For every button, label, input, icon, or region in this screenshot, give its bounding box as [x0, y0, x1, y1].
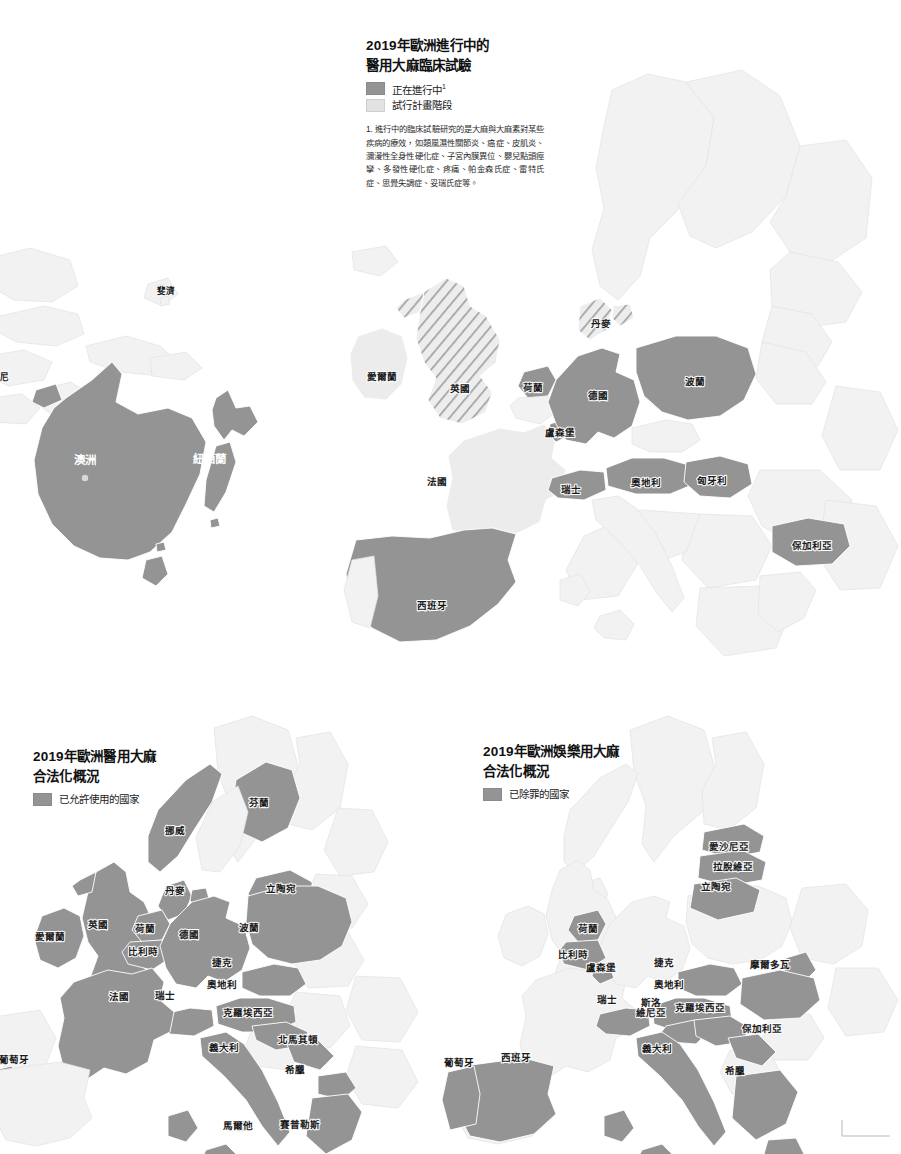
- legend-item-pilot: 試行計畫階段: [366, 99, 556, 112]
- map-label-挪威: 挪威: [165, 825, 185, 836]
- map-label-保加利亞: 保加利亞: [741, 1023, 782, 1034]
- legend-label-pilot: 試行計畫階段: [392, 100, 452, 111]
- map-label-愛爾蘭: 愛爾蘭: [35, 931, 65, 942]
- map-label-奧地利: 奧地利: [630, 477, 661, 488]
- map-label-斐濟: 斐濟: [156, 285, 175, 296]
- map-label-法國: 法國: [427, 476, 447, 487]
- legend-swatch-dark: [366, 82, 385, 95]
- map-label-丹麥: 丹麥: [164, 885, 185, 896]
- map-label-德國: 德國: [179, 929, 199, 940]
- legend-swatch-dark: [483, 788, 502, 801]
- medical-title-block: 2019年歐洲醫用大麻 合法化概況 已允許使用的國家: [33, 747, 233, 810]
- recreational-legalisation-map-panel: 愛沙尼亞拉脫維亞立陶宛荷蘭比利時盧森堡捷克摩爾多瓦奧地利瑞士斯洛維尼亞克羅埃西亞…: [450, 720, 901, 1154]
- map-label-保加利亞: 保加利亞: [791, 540, 832, 551]
- clinical-trials-legend: 正在進行中1 試行計畫階段: [366, 82, 556, 112]
- map-label-瑞士: 瑞士: [597, 994, 617, 1005]
- legend-label-ongoing: 正在進行中1: [392, 83, 446, 95]
- legend-swatch-light: [366, 99, 385, 112]
- map-label-希臘: 希臘: [725, 1065, 745, 1076]
- map-label-荷蘭: 荷蘭: [577, 923, 598, 934]
- map-label-瑞士: 瑞士: [155, 990, 175, 1001]
- capital-dot-icon: [82, 475, 88, 481]
- map-label-葡萄牙: 葡萄牙: [443, 1057, 474, 1068]
- map-label-賽普勒斯: 賽普勒斯: [279, 1119, 320, 1130]
- clinical-trials-title-block: 2019年歐洲進行中的 醫用大麻臨床試驗 正在進行中1 試行計畫階段 1. 進行…: [366, 36, 556, 190]
- oceania-inset-panel: 斐濟尼澳洲紐西蘭: [0, 230, 300, 630]
- map-label-盧森堡: 盧森堡: [545, 427, 575, 438]
- map-label-北馬其頓: 北馬其頓: [278, 1034, 318, 1045]
- map-label-葡萄牙: 葡萄牙: [0, 1054, 29, 1065]
- map-label-克羅埃西亞: 克羅埃西亞: [223, 1007, 273, 1018]
- legend-item-decriminalised: 已除罪的國家: [483, 788, 693, 801]
- map-label-克羅埃西亞: 克羅埃西亞: [675, 1002, 725, 1013]
- map-label-奧地利: 奧地利: [206, 979, 237, 990]
- map-label-捷克: 捷克: [212, 957, 232, 968]
- map-label-立陶宛: 立陶宛: [701, 881, 731, 892]
- medical-legend: 已允許使用的國家: [33, 793, 233, 806]
- legend-item-medical-allowed: 已允許使用的國家: [33, 793, 233, 806]
- map-label-尼: 尼: [0, 372, 9, 382]
- medical-legalisation-map-panel: 芬蘭挪威丹麥立陶宛英國愛爾蘭荷蘭比利時德國波蘭捷克奧地利瑞士法國克羅埃西亞北馬其…: [0, 720, 440, 1154]
- map-label-荷蘭: 荷蘭: [522, 382, 543, 393]
- map-label-拉脫維亞: 拉脫維亞: [713, 861, 753, 872]
- map-label-芬蘭: 芬蘭: [248, 797, 269, 808]
- legend-item-ongoing: 正在進行中1: [366, 82, 556, 95]
- map-label-愛爾蘭: 愛爾蘭: [367, 371, 397, 382]
- recreational-title: 2019年歐洲娛樂用大麻 合法化概況: [483, 742, 693, 781]
- recreational-legend: 已除罪的國家: [483, 788, 693, 801]
- clinical-trials-footnote: 1. 進行中的臨床試驗研究的是大麻與大麻素對某些疾病的療效，如類風濕性關節炎、癌…: [366, 123, 544, 190]
- map-label-瑞士: 瑞士: [561, 484, 581, 495]
- map-label-英國: 英國: [88, 919, 108, 930]
- recreational-title-block: 2019年歐洲娛樂用大麻 合法化概況 已除罪的國家: [483, 742, 693, 805]
- map-label-英國: 英國: [450, 383, 470, 394]
- map-label-捷克: 捷克: [654, 957, 674, 968]
- map-label-奧地利: 奧地利: [653, 979, 684, 990]
- legend-label-medical-allowed: 已允許使用的國家: [59, 794, 139, 805]
- map-label-維尼亞: 維尼亞: [636, 1007, 666, 1018]
- map-label-義大利: 義大利: [209, 1042, 239, 1053]
- map-label-紐西蘭: 紐西蘭: [193, 452, 227, 465]
- map-label-荷蘭: 荷蘭: [134, 923, 155, 934]
- map-label-澳洲: 澳洲: [74, 453, 96, 466]
- legend-swatch-dark: [33, 793, 52, 806]
- map-label-立陶宛: 立陶宛: [266, 883, 296, 894]
- map-label-波蘭: 波蘭: [239, 922, 259, 933]
- clinical-trials-title: 2019年歐洲進行中的 醫用大麻臨床試驗: [366, 36, 556, 75]
- medical-title: 2019年歐洲醫用大麻 合法化概況: [33, 747, 233, 786]
- oceania-inset-svg: 斐濟尼澳洲紐西蘭: [0, 230, 300, 630]
- map-label-馬爾他: 馬爾他: [223, 1120, 253, 1131]
- map-label-摩爾多瓦: 摩爾多瓦: [749, 959, 790, 970]
- map-label-義大利: 義大利: [642, 1043, 672, 1054]
- map-label-愛沙尼亞: 愛沙尼亞: [709, 841, 749, 852]
- map-label-比利時: 比利時: [128, 946, 158, 957]
- map-label-德國: 德國: [588, 390, 608, 401]
- map-label-匈牙利: 匈牙利: [696, 475, 727, 486]
- map-label-西班牙: 西班牙: [417, 600, 447, 611]
- map-label-西班牙: 西班牙: [501, 1052, 531, 1063]
- map-label-法國: 法國: [109, 991, 129, 1002]
- map-label-比利時: 比利時: [558, 949, 588, 960]
- map-label-丹麥: 丹麥: [590, 318, 611, 329]
- map-label-希臘: 希臘: [285, 1064, 305, 1075]
- map-label-盧森堡: 盧森堡: [586, 962, 616, 973]
- legend-label-decriminalised: 已除罪的國家: [509, 789, 569, 800]
- map-label-波蘭: 波蘭: [685, 376, 705, 387]
